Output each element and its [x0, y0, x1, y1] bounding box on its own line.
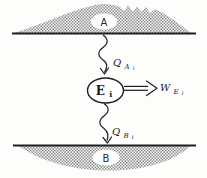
- work-label-main: W: [160, 82, 171, 93]
- work-label-sub: E: [172, 88, 178, 96]
- heat-out-label: Q B i: [112, 126, 134, 140]
- heat-in-label-main: Q: [113, 57, 121, 68]
- work-arrowhead-icon: [147, 81, 158, 96]
- diagram-canvas: A Q A i E i W E i Q: [0, 0, 207, 178]
- heat-out-label-main: Q: [112, 126, 120, 137]
- heat-out-label-sub: B: [122, 132, 128, 140]
- work-arrow: [124, 81, 157, 96]
- heat-out-label-subsub: i: [132, 134, 134, 140]
- work-label: W E i: [160, 82, 184, 96]
- reservoir-a-label: A: [101, 17, 108, 28]
- heat-out-wavy-arrow: [100, 104, 108, 141]
- heat-in-arrowhead-icon: [101, 68, 109, 74]
- heat-in-label-sub: A: [123, 63, 129, 71]
- engine-label-main: E: [96, 84, 105, 98]
- heat-in-label: Q A i: [113, 57, 135, 71]
- work-label-subsub: i: [182, 90, 184, 96]
- heat-in-label-subsub: i: [133, 65, 135, 71]
- reservoir-b-label: B: [103, 153, 110, 164]
- engine-label-sub: i: [109, 89, 112, 99]
- heat-in-wavy-arrow: [99, 35, 107, 73]
- heat-engine-diagram: A Q A i E i W E i Q: [0, 0, 207, 178]
